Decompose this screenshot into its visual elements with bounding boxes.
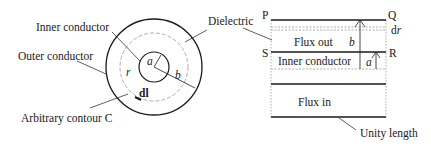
dielectric-right-leader (243, 28, 272, 40)
coax-cross-section: Inner conductor Outer conductor Arbitrar… (18, 19, 207, 125)
rect-radius-b-label: b (349, 36, 355, 48)
arbitrary-contour-label: Arbitrary contour C (21, 112, 113, 125)
radius-a-label: a (147, 55, 153, 67)
rect-radius-a-label: a (366, 56, 372, 68)
radius-a-line (154, 55, 161, 67)
coaxial-cable-diagram: Inner conductor Outer conductor Arbitrar… (0, 0, 431, 146)
dielectric-label: Dielectric (208, 15, 253, 27)
flux-rectangle: P Q S R Flux out Inner conductor Flux in… (262, 9, 418, 140)
radius-b-label: b (175, 69, 181, 81)
unity-length-label: Unity length (360, 127, 418, 140)
corner-p-label: P (262, 9, 268, 21)
corner-s-label: S (262, 47, 268, 59)
contour-leader (90, 94, 128, 108)
outer-conductor-leader (77, 61, 106, 74)
diagram-svg: Inner conductor Outer conductor Arbitrar… (0, 0, 431, 146)
corner-r-label: R (389, 47, 397, 59)
dr-r: r (397, 24, 402, 36)
inner-conductor-label: Inner conductor (36, 21, 109, 33)
radius-r-label: r (126, 66, 131, 78)
unity-length-leader (339, 118, 356, 130)
strip-dr-label: dr (391, 24, 402, 36)
outer-conductor-label: Outer conductor (18, 50, 93, 62)
dielectric-leader (185, 30, 207, 42)
line-element-dl-label: dl (139, 87, 149, 99)
flux-in-label: Flux in (298, 96, 331, 108)
inner-conductor-leader (112, 32, 140, 61)
inner-conductor-rect-label: Inner conductor (278, 55, 351, 67)
corner-q-label: Q (388, 9, 397, 21)
flux-out-label: Flux out (294, 36, 333, 48)
